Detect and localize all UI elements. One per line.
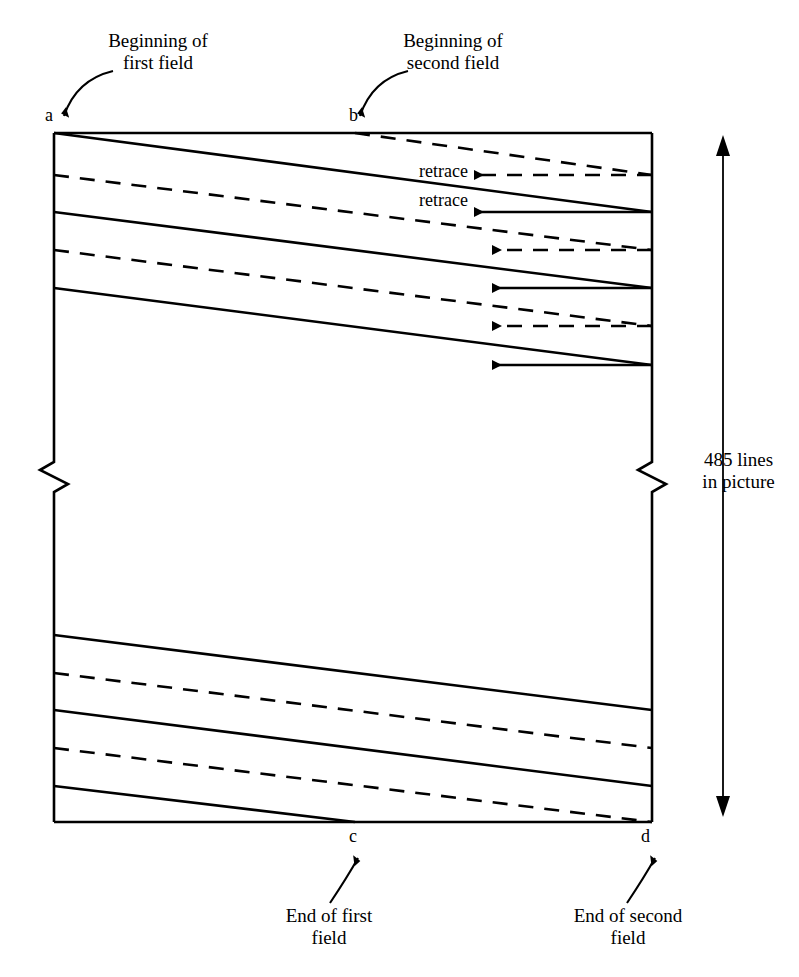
label-beginning-of-first-field: Beginning of first field [68, 30, 248, 75]
callout-arrow-end-first-field [330, 858, 358, 903]
figure-canvas: Beginning of first field Beginning of se… [0, 0, 799, 977]
label-end-of-first-field: End of first field [239, 905, 419, 950]
callout-arrow-begin-first-field [64, 71, 113, 116]
point-label-d: d [641, 826, 650, 847]
label-beginning-of-second-field: Beginning of second field [363, 30, 543, 75]
point-label-b: b [349, 105, 358, 126]
scan-line-bottom-field1-1 [54, 635, 652, 710]
retrace-arrows-dashed-group [474, 175, 652, 326]
label-485-lines-in-picture: 485 lines in picture [686, 449, 791, 494]
scan-line-field1-1 [54, 133, 652, 212]
raster-frame-border [40, 133, 666, 822]
point-label-a: a [45, 105, 53, 126]
scan-line-field2-start [355, 133, 652, 175]
label-end-of-second-field: End of second field [533, 905, 723, 950]
raster-scan-diagram [0, 0, 799, 977]
label-retrace-upper: retrace [419, 161, 468, 182]
callout-arrow-begin-second-field [360, 71, 408, 116]
top-scan-lines-field2-group [54, 133, 652, 326]
retrace-arrows-solid-group [474, 212, 652, 365]
frame-left-edge-with-break [40, 133, 68, 822]
callout-arrow-end-second-field [627, 858, 655, 903]
point-label-c: c [349, 826, 357, 847]
scan-line-bottom-field1-2 [54, 710, 652, 786]
scan-line-bottom-field2-1 [54, 673, 652, 748]
lines-extent-arrowhead-bottom [716, 796, 730, 817]
scan-line-bottom-field2-2-to-d [54, 748, 652, 822]
callout-arrows-group [64, 71, 655, 903]
lines-extent-arrowhead-top [716, 135, 730, 156]
frame-right-edge-with-break [638, 133, 666, 822]
bottom-scan-lines-group [54, 635, 652, 822]
label-retrace-lower: retrace [419, 190, 468, 211]
scan-line-bottom-field1-3-to-c [54, 786, 355, 822]
